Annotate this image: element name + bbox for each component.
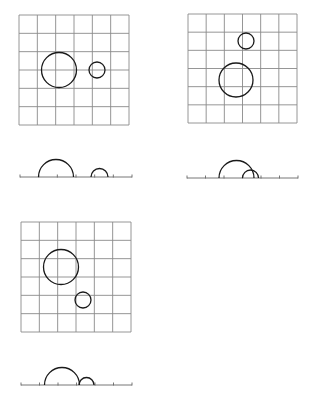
semicircle-large <box>219 161 254 179</box>
projection <box>21 368 132 386</box>
diagram-canvas <box>0 0 319 405</box>
semicircle-small <box>79 378 94 385</box>
panel-3 <box>21 222 132 386</box>
panel-1 <box>19 15 132 178</box>
semicircle-large <box>39 160 74 177</box>
semicircle-small <box>91 169 108 178</box>
semicircle-small <box>243 170 259 178</box>
grid <box>19 15 129 125</box>
projection <box>20 160 132 178</box>
circle-small <box>238 33 254 49</box>
panel-2 <box>187 14 298 179</box>
grid <box>188 14 297 123</box>
circle-large <box>44 250 79 285</box>
semicircle-large <box>45 368 80 386</box>
circle-small <box>75 292 91 308</box>
projection <box>187 161 298 179</box>
